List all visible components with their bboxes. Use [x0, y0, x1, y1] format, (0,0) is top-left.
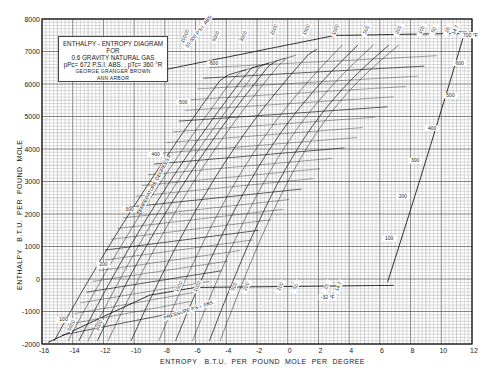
isotherm-label: 200	[99, 261, 108, 267]
x-axis-label: ENTROPY B.T.U. PER POUND MOLE PER DEGREE	[160, 358, 365, 365]
isotherm-label: 500	[446, 92, 455, 98]
y-tick-label: 0	[36, 276, 40, 283]
isobar-line	[108, 55, 296, 341]
x-tick-label: -4	[225, 347, 231, 354]
x-tick-label: 8	[411, 347, 415, 354]
isotherm-label: 100	[59, 316, 68, 322]
isobar-line	[131, 49, 317, 341]
y-axis-label: ENTHALPY B.T.U. PER POUND MOLE	[16, 140, 23, 290]
x-tick-label: 10	[439, 347, 447, 354]
title-author: GEORGE GRANGER BROWN	[59, 68, 167, 75]
title-line-2: FOR	[59, 47, 167, 54]
isotherm-line	[191, 87, 406, 100]
isotherm-label: 400	[151, 151, 160, 157]
isotherm-label: 500	[179, 99, 188, 105]
title-line-1: ENTHALPY - ENTROPY DIAGRAM	[59, 40, 167, 47]
isobar-line	[193, 45, 374, 341]
y-tick-label: 6000	[24, 81, 40, 88]
y-tick-label: -2000	[22, 341, 40, 348]
title-institution: ANN ARBOR	[59, 75, 167, 82]
x-axis-ticks: -16-14-12-10-8-6-4-2024681012	[39, 347, 478, 354]
isotherm-line	[123, 200, 289, 218]
isotherm-label: 200	[399, 193, 408, 199]
isotherm-label: 600	[456, 60, 465, 66]
x-tick-label: -6	[194, 347, 200, 354]
y-axis-ticks: 800070006000500040003000200010000-1000-2…	[22, 16, 40, 348]
chart-title-box: ENTHALPY - ENTROPY DIAGRAM FOR 0.6 GRAVI…	[58, 36, 168, 82]
x-tick-label: -14	[70, 347, 80, 354]
x-tick-label: -16	[39, 347, 49, 354]
lower-envelope-line	[48, 285, 394, 342]
x-tick-label: -8	[164, 347, 170, 354]
y-tick-label: 2000	[24, 211, 40, 218]
y-tick-label: 1000	[24, 243, 40, 250]
x-tick-label: 4	[349, 347, 353, 354]
x-tick-label: 2	[318, 347, 322, 354]
title-line-3: 0.6 GRAVITY NATURAL GAS	[59, 54, 167, 61]
isotherm-line	[105, 230, 259, 250]
isotherm-line	[209, 56, 436, 68]
isobar-line	[220, 45, 399, 341]
isotherm-label: 300	[411, 157, 420, 163]
isotherm-line	[148, 158, 332, 175]
x-tick-label: -10	[131, 347, 141, 354]
isotherm-label: 400	[428, 125, 437, 131]
isotherm-line	[160, 138, 356, 154]
x-tick-label: 0	[288, 347, 292, 354]
y-tick-label: 5000	[24, 113, 40, 120]
isotherm-label: 100	[385, 235, 394, 241]
temperature-axis-annotation: TEMPERATURE DEGREES F.	[135, 152, 172, 215]
bottom-temperature-annotation: -32 °F	[321, 294, 335, 300]
x-tick-label: 6	[380, 347, 384, 354]
x-tick-label: 12	[470, 347, 478, 354]
title-line-4: pPc= 672 P.S.I. ABS. , pTc= 360 °R	[59, 61, 167, 68]
y-tick-label: 4000	[24, 146, 40, 153]
y-tick-label: -1000	[22, 308, 40, 315]
y-tick-label: 3000	[24, 178, 40, 185]
isotherm-label: 300	[125, 206, 134, 212]
isotherm-line	[99, 251, 240, 271]
y-tick-label: 8000	[24, 16, 40, 23]
isotherm-label: 600	[210, 60, 219, 66]
x-tick-label: -2	[256, 347, 262, 354]
y-tick-label: 7000	[24, 48, 40, 55]
top-temperature-annotation: 700 °F	[463, 32, 478, 38]
x-tick-label: -12	[100, 347, 110, 354]
